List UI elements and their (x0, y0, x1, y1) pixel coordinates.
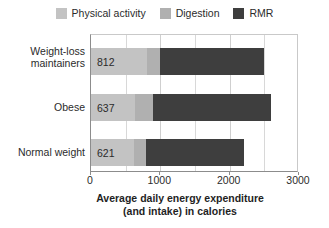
ycat-label-line1: Obese (0, 101, 85, 113)
ycat-label-obese: Obese (0, 101, 85, 113)
chart-legend: Physical activity Digestion RMR (0, 8, 329, 19)
bar-segment-rmr[interactable] (146, 139, 243, 166)
bar-segment-physical-activity[interactable]: 812 (91, 48, 147, 75)
legend-swatch-rmr-icon (233, 8, 244, 19)
bar-segment-digestion[interactable] (134, 139, 146, 166)
table-row[interactable]: 637 (91, 94, 271, 121)
table-row[interactable]: 621 (91, 139, 244, 166)
bar-value-label: 621 (97, 147, 115, 159)
xtick-label-3000: 3000 (286, 174, 309, 186)
bar-segment-rmr[interactable] (160, 48, 264, 75)
bar-value-label: 812 (97, 56, 115, 68)
legend-swatch-physical-activity-icon (56, 8, 67, 19)
xtick-label-0: 0 (87, 174, 93, 186)
legend-label-physical-activity: Physical activity (72, 8, 146, 19)
legend-item-rmr[interactable]: RMR (233, 8, 273, 19)
x-axis-title-line2: (and intake) in calories (40, 205, 320, 218)
ycat-label-normal-weight: Normal weight (0, 146, 85, 158)
ycat-label-weight-loss-maintainers: Weight-loss maintainers (0, 45, 85, 69)
bar-segment-digestion[interactable] (135, 94, 153, 121)
legend-item-digestion[interactable]: Digestion (160, 8, 220, 19)
xtick-label-1000: 1000 (148, 174, 171, 186)
ycat-label-line1: Normal weight (0, 146, 85, 158)
legend-label-digestion: Digestion (176, 8, 220, 19)
ycat-label-line2: maintainers (0, 57, 85, 69)
x-axis-title-line1: Average daily energy expenditure (40, 192, 320, 205)
bar-segment-physical-activity[interactable]: 621 (91, 139, 134, 166)
ycat-label-line1: Weight-loss (0, 45, 85, 57)
legend-swatch-digestion-icon (160, 8, 171, 19)
bar-segment-digestion[interactable] (147, 48, 160, 75)
legend-item-physical-activity[interactable]: Physical activity (56, 8, 146, 19)
bar-segment-physical-activity[interactable]: 637 (91, 94, 135, 121)
bar-value-label: 637 (97, 102, 115, 114)
stacked-bar-chart: Physical activity Digestion RMR Weight-l… (0, 0, 329, 228)
table-row[interactable]: 812 (91, 48, 264, 75)
plot-area: 812 637 621 (90, 34, 298, 172)
xtick-label-2000: 2000 (217, 174, 240, 186)
bar-segment-rmr[interactable] (153, 94, 271, 121)
x-axis-title: Average daily energy expenditure (and in… (40, 192, 320, 218)
legend-label-rmr: RMR (249, 8, 273, 19)
